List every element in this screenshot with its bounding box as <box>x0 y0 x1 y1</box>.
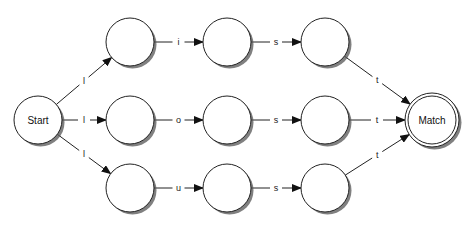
arrow-icon <box>89 158 111 174</box>
state-c1 <box>106 164 157 215</box>
node-circle <box>203 18 251 66</box>
edge-label: o <box>176 115 181 125</box>
node-circle <box>106 96 154 144</box>
arrow-icon <box>89 58 112 78</box>
node-circle <box>106 18 154 66</box>
accept-state-match: Match <box>405 93 462 150</box>
edge-label: t <box>376 75 379 85</box>
node-circle <box>301 18 349 66</box>
transition-c1-c2: u <box>154 183 203 193</box>
edge-line <box>345 158 372 175</box>
state-diagram: lllistostust StartMatch <box>0 0 471 232</box>
node-circle <box>301 164 349 212</box>
transition-start-c1: l <box>57 134 110 173</box>
edge-label: l <box>83 76 85 86</box>
state-a3 <box>301 18 352 69</box>
edge-line <box>56 85 79 105</box>
node-label: Start <box>27 115 48 126</box>
edge-label: t <box>376 150 379 160</box>
transition-b3-match: t <box>349 115 405 125</box>
node-circle <box>106 164 154 212</box>
transition-c2-c3: s <box>251 183 301 193</box>
state-b2 <box>203 96 254 147</box>
transition-a1-a2: i <box>154 37 203 47</box>
transition-a2-a3: s <box>251 37 301 47</box>
node-circle <box>301 96 349 144</box>
edge-label: s <box>274 183 279 193</box>
transition-c3-match: t <box>345 134 409 175</box>
state-c3 <box>301 164 352 215</box>
state-b3 <box>301 96 352 147</box>
edge-label: i <box>178 37 180 47</box>
state-c2 <box>203 164 254 215</box>
state-b1 <box>106 96 157 147</box>
arrow-icon <box>382 84 410 104</box>
transition-start-b1: l <box>62 115 106 125</box>
nodes-layer: StartMatch <box>14 18 462 215</box>
edge-label: s <box>274 37 279 47</box>
transition-start-a1: l <box>56 58 111 105</box>
transition-b2-b3: s <box>251 115 301 125</box>
edge-label: s <box>274 115 279 125</box>
node-circle <box>203 96 251 144</box>
edge-label: l <box>83 115 85 125</box>
node-label: Match <box>418 115 445 126</box>
transition-b1-b2: o <box>154 115 203 125</box>
state-a1 <box>106 18 157 69</box>
edge-line <box>57 134 79 150</box>
node-circle <box>203 164 251 212</box>
arrow-icon <box>382 134 409 151</box>
edge-label: t <box>376 115 379 125</box>
edge-label: u <box>176 183 181 193</box>
edge-line <box>344 56 372 76</box>
edge-label: l <box>83 149 85 159</box>
transition-a3-match: t <box>344 56 410 104</box>
state-a2 <box>203 18 254 69</box>
